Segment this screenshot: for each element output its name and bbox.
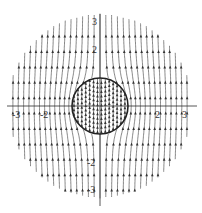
arrow-icon — [116, 107, 119, 110]
arrow-icon — [33, 127, 36, 130]
arrow-icon — [164, 81, 167, 84]
arrow-icon — [159, 81, 162, 84]
arrow-icon — [105, 158, 108, 161]
arrow-icon — [46, 158, 49, 161]
arrow-icon — [104, 98, 107, 101]
x-tick-label: -3 — [12, 109, 20, 120]
arrow-icon — [88, 84, 91, 87]
arrow-icon — [152, 158, 155, 161]
arrow-icon — [120, 94, 123, 97]
arrow-icon — [108, 106, 111, 109]
arrow-icon — [69, 50, 72, 53]
arrow-icon — [105, 173, 108, 176]
arrow-icon — [137, 81, 140, 84]
x-tick-label: 2 — [155, 109, 160, 120]
arrow-icon — [124, 97, 127, 100]
arrow-icon — [120, 103, 123, 106]
arrow-icon — [96, 85, 99, 88]
arrow-icon — [88, 88, 91, 91]
arrow-icon — [71, 81, 74, 84]
arrow-icon — [175, 112, 178, 115]
arrow-icon — [163, 158, 166, 161]
arrow-icon — [59, 96, 62, 99]
arrow-icon — [104, 125, 107, 128]
arrow-icon — [164, 112, 167, 115]
arrow-icon — [128, 173, 131, 176]
arrow-icon — [79, 65, 82, 68]
arrow-icon — [130, 142, 133, 145]
arrow-icon — [17, 127, 20, 130]
arrow-icon — [84, 100, 87, 103]
arrow-icon — [63, 173, 66, 176]
arrow-icon — [186, 81, 189, 84]
arrow-icon — [88, 101, 91, 104]
arrow-icon — [145, 35, 148, 38]
arrow-icon — [29, 65, 32, 68]
arrow-icon — [141, 65, 144, 68]
arrow-icon — [46, 50, 49, 53]
arrow-icon — [124, 102, 127, 105]
arrow-icon — [146, 50, 149, 53]
arrow-icon — [164, 96, 167, 99]
arrow-icon — [84, 91, 87, 94]
arrow-icon — [96, 130, 99, 133]
arrow-icon — [100, 121, 103, 124]
arrow-icon — [69, 173, 72, 176]
arrow-icon — [77, 102, 80, 105]
arrow-icon — [28, 96, 31, 99]
arrow-icon — [85, 65, 88, 68]
arrow-icon — [180, 142, 183, 145]
arrow-icon — [96, 121, 99, 124]
arrow-icon — [127, 81, 130, 84]
arrow-icon — [69, 35, 72, 38]
arrow-icon — [39, 65, 42, 68]
arrow-icon — [110, 189, 113, 192]
arrow-icon — [49, 96, 52, 99]
arrow-icon — [58, 112, 61, 115]
y-tick-label: 3 — [92, 16, 97, 27]
arrow-icon — [116, 111, 119, 114]
arrow-icon — [138, 127, 141, 130]
arrow-icon — [52, 35, 55, 38]
arrow-icon — [120, 116, 123, 119]
arrow-icon — [81, 35, 84, 38]
arrow-icon — [74, 50, 77, 53]
arrow-icon — [51, 158, 54, 161]
arrow-icon — [132, 127, 135, 130]
arrow-icon — [152, 50, 155, 53]
arrow-icon — [33, 81, 36, 84]
arrow-icon — [35, 158, 38, 161]
arrow-icon — [65, 81, 68, 84]
arrow-icon — [57, 158, 60, 161]
arrow-icon — [77, 97, 80, 100]
arrow-icon — [134, 96, 137, 99]
arrow-icon — [112, 114, 115, 117]
arrow-icon — [23, 142, 26, 145]
arrow-icon — [84, 113, 87, 116]
arrow-icon — [124, 111, 127, 114]
arrow-icon — [169, 81, 172, 84]
arrow-icon — [35, 50, 38, 53]
arrow-icon — [157, 50, 160, 53]
arrow-icon — [140, 173, 143, 176]
arrow-icon — [23, 127, 26, 130]
arrow-icon — [169, 127, 172, 130]
arrow-icon — [92, 112, 95, 115]
arrow-icon — [92, 116, 95, 119]
arrow-icon — [63, 112, 66, 115]
arrow-icon — [28, 142, 31, 145]
arrow-icon — [112, 142, 115, 145]
arrow-icon — [169, 65, 172, 68]
arrow-icon — [139, 112, 142, 115]
arrow-icon — [96, 81, 99, 84]
arrow-icon — [84, 109, 87, 112]
arrow-icon — [111, 35, 114, 38]
arrow-icon — [122, 173, 125, 176]
arrow-icon — [163, 65, 166, 68]
arrow-icon — [164, 127, 167, 130]
arrow-icon — [174, 65, 177, 68]
arrow-icon — [84, 122, 87, 125]
arrow-icon — [147, 142, 150, 145]
arrow-icon — [96, 126, 99, 129]
arrow-icon — [64, 189, 67, 192]
